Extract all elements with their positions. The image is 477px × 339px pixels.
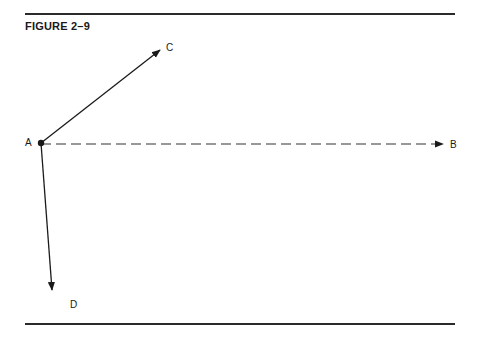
vector-ad (41, 143, 52, 290)
origin-point-a (38, 140, 44, 146)
vector-diagram (0, 0, 477, 339)
label-a: A (25, 137, 32, 148)
label-b: B (450, 139, 457, 150)
label-c: C (166, 42, 173, 53)
label-d: D (70, 299, 77, 310)
bottom-rule (25, 323, 455, 325)
vector-ac (41, 50, 160, 143)
